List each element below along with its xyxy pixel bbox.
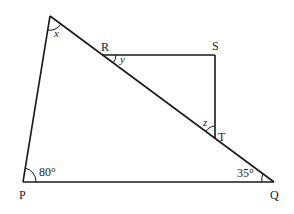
side-top-q (50, 16, 274, 182)
angle-label-y: y (119, 53, 125, 65)
point-label-q: Q (270, 188, 279, 202)
angle-arc-p (25, 168, 36, 182)
point-label-r: R (101, 40, 109, 54)
point-label-s: S (212, 39, 219, 53)
point-label-p: P (19, 188, 26, 202)
point-label-t: T (218, 130, 226, 144)
angle-arc-z (206, 126, 215, 131)
side-top-p (23, 16, 50, 182)
angle-label-p: 80° (39, 165, 56, 179)
angle-label-x: x (53, 27, 59, 39)
angle-arc-q (262, 174, 263, 182)
angle-label-z: z (202, 116, 208, 128)
angle-label-q: 35° (237, 166, 254, 180)
geometry-diagram: x y z 80° 35° R S T P Q (0, 0, 294, 214)
angle-arc-y (113, 55, 116, 63)
